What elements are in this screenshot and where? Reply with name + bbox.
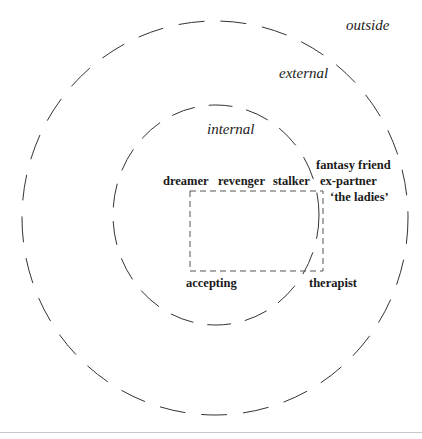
core-box bbox=[190, 191, 323, 271]
role-label-ex-partner: ex-partner bbox=[320, 175, 377, 188]
role-label-fantasy-friend: fantasy friend bbox=[316, 159, 391, 172]
bottom-divider bbox=[0, 432, 422, 433]
external-zone-boundary bbox=[22, 21, 408, 415]
concentric-zones-diagram bbox=[0, 0, 422, 439]
role-label-dreamer: dreamer bbox=[163, 175, 209, 188]
role-label-the-ladies: ‘the ladies’ bbox=[330, 191, 389, 204]
internal-zone-boundary bbox=[113, 105, 319, 325]
role-label-accepting: accepting bbox=[186, 277, 237, 290]
role-label-stalker: stalker bbox=[273, 175, 310, 188]
zone-label-outside: outside bbox=[346, 18, 389, 33]
role-label-therapist: therapist bbox=[309, 277, 357, 290]
zone-label-internal: internal bbox=[207, 122, 255, 137]
role-label-revenger: revenger bbox=[218, 175, 265, 188]
zone-label-external: external bbox=[279, 66, 328, 81]
